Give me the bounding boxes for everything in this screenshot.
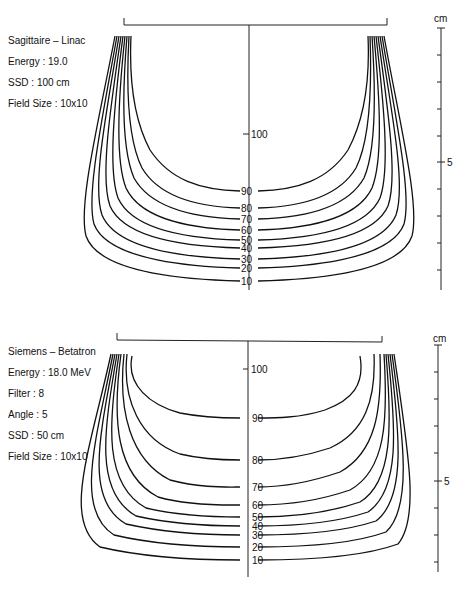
bottom-label-10: 10 xyxy=(252,555,264,566)
top-field-bracket xyxy=(124,18,387,25)
top-label-70: 70 xyxy=(241,214,253,225)
bottom-label-100: 100 xyxy=(251,364,268,375)
bottom-scale-unit: cm xyxy=(433,333,446,344)
top-scale-5cm: 5 xyxy=(447,157,453,168)
bottom-label-60: 60 xyxy=(252,500,264,511)
top-label-20: 20 xyxy=(241,263,253,274)
bottom-scale-5cm: 5 xyxy=(444,476,450,487)
isodose-diagram: 100 90 80 70 60 50 40 30 20 10 cm 5 xyxy=(0,0,466,591)
top-label-90: 90 xyxy=(241,186,253,197)
top-label-100: 100 xyxy=(251,129,268,140)
bottom-label-70: 70 xyxy=(252,482,264,493)
top-label-40: 40 xyxy=(241,243,253,254)
bottom-depth-scale: cm 5 xyxy=(433,333,450,572)
bottom-field-bracket xyxy=(117,333,382,342)
bottom-label-90: 90 xyxy=(252,413,264,424)
top-isodose-chart: 100 90 80 70 60 50 40 30 20 10 cm 5 xyxy=(84,13,453,290)
bottom-label-30: 30 xyxy=(252,530,264,541)
top-depth-scale: cm 5 xyxy=(434,13,453,290)
bottom-label-80: 80 xyxy=(252,455,264,466)
top-scale-unit: cm xyxy=(434,13,447,24)
bottom-isodose-curves xyxy=(81,354,410,560)
bottom-label-20: 20 xyxy=(252,542,264,553)
bottom-isodose-labels: 100 90 80 70 60 50 40 30 20 10 xyxy=(251,364,268,566)
bottom-isodose-chart: 100 90 80 70 60 50 40 30 20 10 cm 5 xyxy=(81,333,450,577)
top-label-10: 10 xyxy=(241,276,253,287)
top-label-80: 80 xyxy=(241,203,253,214)
